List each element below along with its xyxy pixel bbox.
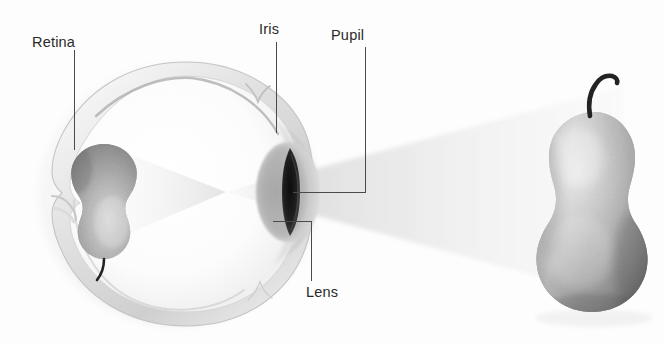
label-lens: Lens	[306, 285, 338, 300]
label-retina: Retina	[32, 35, 75, 50]
eye-diagram-canvas: Retina Iris Pupil Lens	[0, 0, 664, 344]
label-pupil: Pupil	[331, 28, 364, 43]
label-iris: Iris	[259, 22, 279, 37]
inverted-pear-highlight	[94, 196, 130, 248]
